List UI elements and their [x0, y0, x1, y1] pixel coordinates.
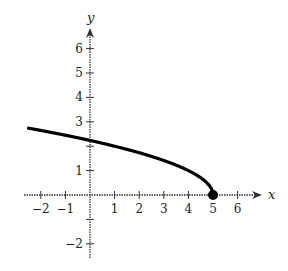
x-tick-label: 4	[185, 202, 193, 216]
x-tick-label: 2	[135, 202, 143, 216]
x-tick-label: 5	[209, 202, 217, 216]
y-tick-label: 5	[75, 66, 83, 80]
function-curve	[29, 128, 214, 195]
x-tick-label: 6	[234, 202, 242, 216]
y-tick-label: 6	[75, 42, 83, 56]
graph-plot: −2−1123456−213456 x y	[0, 0, 288, 271]
x-tick-label: 3	[160, 202, 168, 216]
y-tick-label: 4	[75, 90, 83, 104]
x-axis-arrow-icon	[252, 191, 262, 199]
curve	[29, 128, 219, 200]
x-tick-label: −2	[32, 202, 50, 216]
x-axis-label: x	[268, 187, 276, 202]
ticks: −2−1123456−213456	[32, 42, 241, 251]
x-tick-label: −1	[57, 202, 75, 216]
y-tick-label: −2	[65, 237, 83, 251]
y-tick-label: 1	[75, 164, 83, 178]
y-axis-label: y	[86, 10, 95, 25]
endpoint-marker	[208, 190, 218, 200]
x-tick-label: 1	[111, 202, 119, 216]
y-tick-label: 3	[75, 115, 83, 129]
axes	[24, 28, 262, 258]
